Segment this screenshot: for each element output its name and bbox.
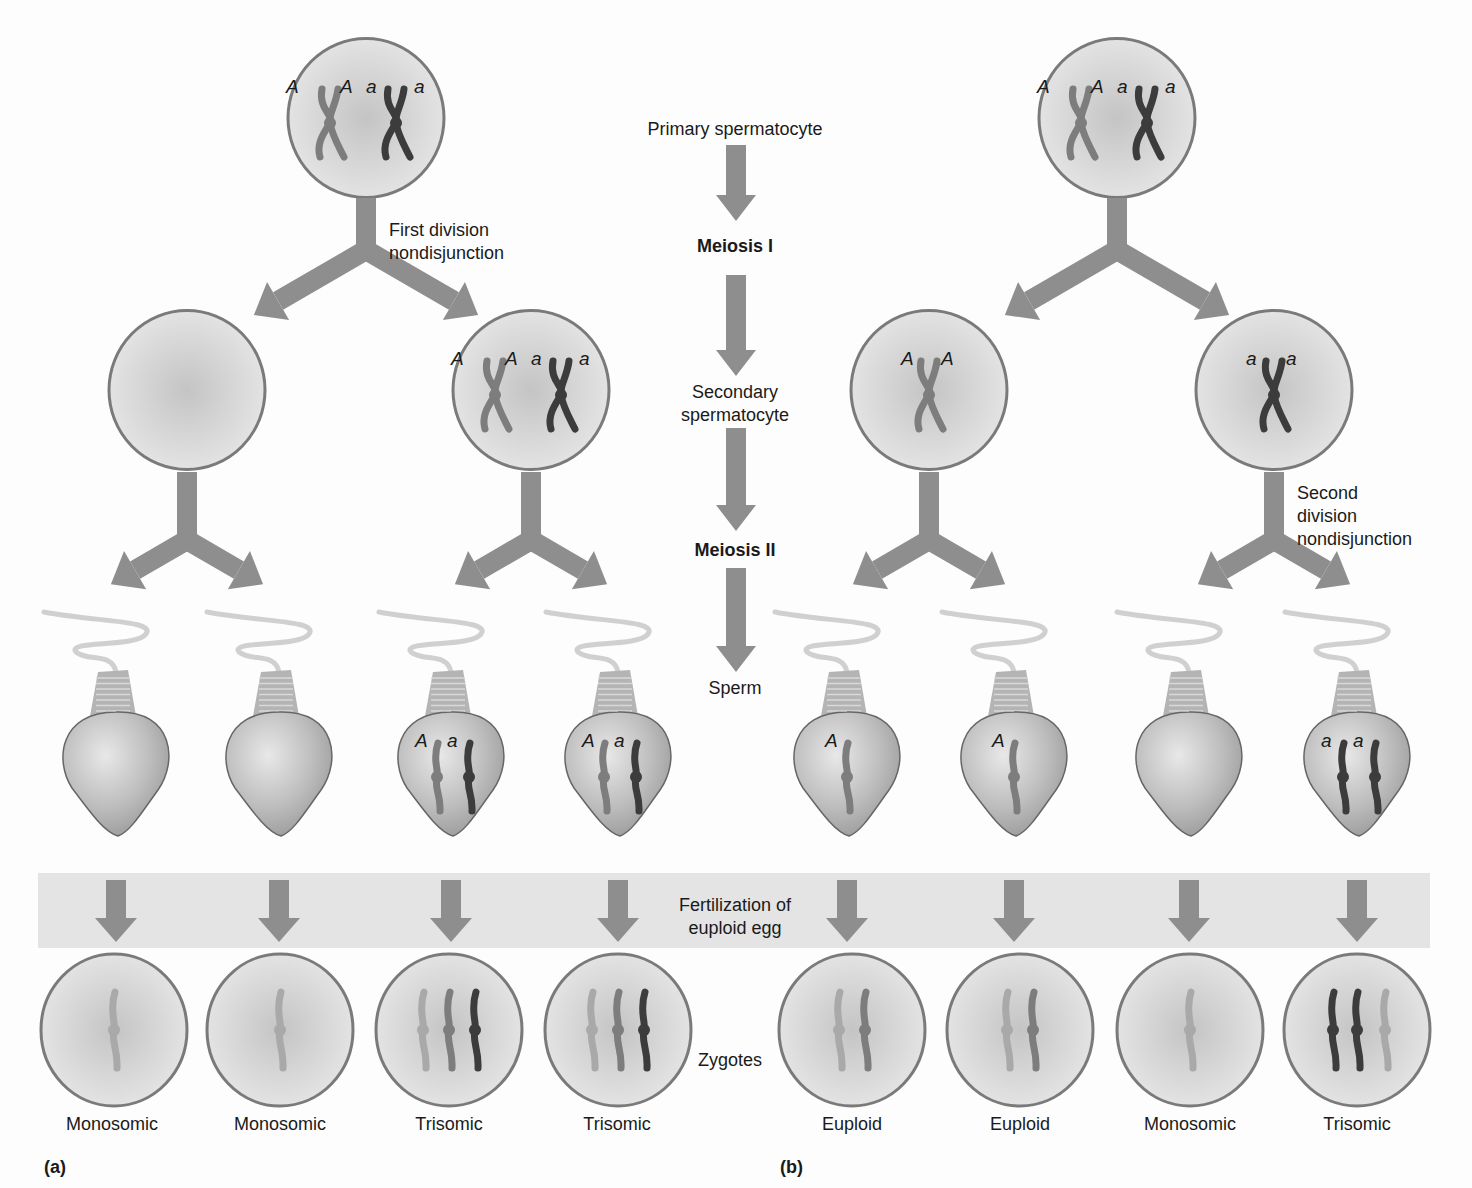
sperm-midpiece <box>592 670 638 716</box>
first-division-label-2: nondisjunction <box>389 242 504 265</box>
allele-label: a <box>1246 348 1257 369</box>
sperm-tail <box>207 612 310 672</box>
fertilization-label-1: Fertilization of <box>679 894 791 917</box>
allele-label: a <box>1117 76 1128 97</box>
sperm-label: Sperm <box>708 677 761 700</box>
sperm-midpiece <box>1163 670 1209 716</box>
sperm-midpiece <box>1331 670 1377 716</box>
meiosis-2-arrow <box>853 472 1005 589</box>
sperm-tail <box>1285 612 1388 672</box>
primary-spermatocyte-cell <box>1039 38 1195 197</box>
secondary-spermatocyte-cell <box>109 310 265 469</box>
secondary-spermatocyte-label-2: spermatocyte <box>681 404 789 427</box>
sperm-cell: A <box>775 612 900 836</box>
zygotes-label: Zygotes <box>698 1049 762 1072</box>
zygote-a1-label: Monosomic <box>66 1113 158 1136</box>
allele-label: A <box>285 76 299 97</box>
allele-label: a <box>414 76 425 97</box>
allele-label: A <box>824 730 838 751</box>
diagram-artwork: AAaaAAaaAaAa AAaaAAaaAAaa <box>0 0 1472 1188</box>
sperm-tail <box>775 612 878 672</box>
sperm-cell: Aa <box>379 612 504 836</box>
zygote-cell <box>545 954 691 1106</box>
second-division-label-2: division <box>1297 505 1357 528</box>
zygote-a2-label: Monosomic <box>234 1113 326 1136</box>
allele-label: a <box>447 730 458 751</box>
sperm-midpiece <box>821 670 867 716</box>
panel-b-label: (b) <box>780 1156 803 1179</box>
zygote-b1-label: Euploid <box>822 1113 882 1136</box>
allele-label: A <box>991 730 1005 751</box>
sperm-cell <box>44 612 169 836</box>
zygote-b2-label: Euploid <box>990 1113 1050 1136</box>
allele-label: A <box>1036 76 1050 97</box>
sperm-midpiece <box>253 670 299 716</box>
zygote-b4-label: Trisomic <box>1323 1113 1390 1136</box>
secondary-spermatocyte-label-1: Secondary <box>692 381 778 404</box>
zygote-a3-label: Trisomic <box>415 1113 482 1136</box>
allele-label: a <box>1353 730 1364 751</box>
allele-label: a <box>579 348 590 369</box>
meiosis-1-arrow <box>1005 198 1229 320</box>
zygote-cell <box>947 954 1093 1106</box>
allele-label: A <box>504 348 518 369</box>
fertilization-label-2: euploid egg <box>688 917 781 940</box>
zygote-cell <box>207 954 353 1106</box>
first-division-label-1: First division <box>389 219 489 242</box>
zygote-cell <box>1117 954 1263 1106</box>
allele-label: a <box>366 76 377 97</box>
allele-label: A <box>339 76 353 97</box>
sperm-tail <box>44 612 147 672</box>
sperm-head <box>226 712 332 836</box>
sperm-tail <box>379 612 482 672</box>
sperm-midpiece <box>90 670 136 716</box>
allele-label: a <box>1165 76 1176 97</box>
sperm-midpiece <box>988 670 1034 716</box>
allele-label: a <box>1321 730 1332 751</box>
primary-spermatocyte-label: Primary spermatocyte <box>647 118 822 141</box>
allele-label: A <box>900 348 914 369</box>
sperm-cell <box>207 612 332 836</box>
sperm-tail <box>942 612 1045 672</box>
allele-label: a <box>1286 348 1297 369</box>
sperm-tail <box>1117 612 1220 672</box>
sperm-cell: Aa <box>546 612 671 836</box>
second-division-label-3: nondisjunction <box>1297 528 1412 551</box>
sperm-head <box>63 712 169 836</box>
meiosis-1-label: Meiosis I <box>697 235 773 258</box>
allele-label: A <box>581 730 595 751</box>
panel-a-label: (a) <box>44 1156 66 1179</box>
sperm-head <box>1136 712 1242 836</box>
sperm-midpiece <box>425 670 471 716</box>
sperm-tail <box>546 612 649 672</box>
zygote-cell <box>779 954 925 1106</box>
sperm-cell: A <box>942 612 1067 836</box>
primary-spermatocyte-cell <box>288 38 444 197</box>
allele-label: a <box>531 348 542 369</box>
allele-label: A <box>414 730 428 751</box>
allele-label: A <box>450 348 464 369</box>
meiosis-2-arrow <box>111 472 263 589</box>
allele-label: A <box>940 348 954 369</box>
meiosis-2-arrow <box>455 472 607 589</box>
zygote-b3-label: Monosomic <box>1144 1113 1236 1136</box>
zygote-cell <box>376 954 522 1106</box>
second-division-label-1: Second <box>1297 482 1358 505</box>
sperm-cell <box>1117 612 1242 836</box>
zygote-a4-label: Trisomic <box>583 1113 650 1136</box>
secondary-spermatocyte-cell <box>453 310 609 469</box>
nondisjunction-diagram: AAaaAAaaAaAa AAaaAAaaAAaa Primary sperma… <box>0 0 1472 1188</box>
allele-label: a <box>614 730 625 751</box>
zygote-cell <box>41 954 187 1106</box>
allele-label: A <box>1090 76 1104 97</box>
sperm-cell: aa <box>1285 612 1410 836</box>
meiosis-2-label: Meiosis II <box>694 539 775 562</box>
zygote-cell <box>1284 954 1430 1106</box>
